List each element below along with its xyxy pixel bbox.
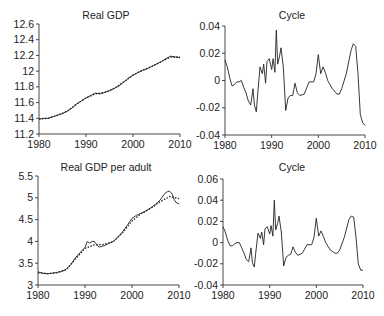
panel-cycle-gdp: Cycle -0.04-0.0200.020.04198019902000201… bbox=[196, 9, 377, 151]
series-actual bbox=[38, 191, 179, 273]
panel-title: Real GDP bbox=[82, 9, 129, 21]
y-tick-label: 12 bbox=[22, 65, 34, 77]
series-actual bbox=[39, 56, 180, 119]
panel-title: Real GDP per adult bbox=[61, 161, 152, 173]
y-tick-label: 12.6 bbox=[14, 18, 35, 30]
y-tick-label: 5 bbox=[27, 191, 33, 203]
y-tick-label: 3.5 bbox=[18, 257, 33, 269]
y-tick-label: -0.02 bbox=[196, 101, 220, 113]
x-tick-label: 1980 bbox=[27, 138, 51, 150]
axes: 11.211.411.611.81212.212.412.61980199020… bbox=[14, 18, 192, 151]
axes: -0.04-0.0200.020.041980199020002010 bbox=[196, 20, 377, 152]
y-tick-label: 4 bbox=[27, 235, 33, 247]
y-tick-label: 0.06 bbox=[198, 173, 219, 185]
x-tick-label: 1980 bbox=[213, 139, 237, 151]
x-tick-label: 2000 bbox=[121, 138, 145, 150]
y-tick-label: -0.02 bbox=[194, 257, 218, 269]
y-tick-label: 0 bbox=[214, 74, 220, 86]
y-tick-label: 11.8 bbox=[14, 80, 34, 92]
x-tick-label: 1990 bbox=[260, 139, 284, 151]
y-tick-label: 0.02 bbox=[200, 47, 221, 59]
panel-cycle-gdp-per-adult: Cycle -0.04-0.0200.020.040.0619801990200… bbox=[194, 161, 375, 301]
x-tick-label: 2010 bbox=[168, 138, 192, 150]
series-cycle bbox=[225, 30, 365, 125]
y-tick-label: 0.04 bbox=[200, 20, 221, 32]
series-trend bbox=[39, 57, 180, 119]
x-tick-label: 1990 bbox=[74, 138, 98, 150]
panel-title: Cycle bbox=[279, 161, 305, 173]
series-cycle bbox=[223, 200, 363, 270]
y-tick-label: 12.4 bbox=[14, 33, 35, 45]
panel-title: Cycle bbox=[279, 9, 305, 21]
x-tick-label: 1990 bbox=[258, 289, 282, 301]
x-tick-label: 1980 bbox=[211, 289, 235, 301]
chart-figure: Real GDP 11.211.411.611.81212.212.412.61… bbox=[0, 0, 384, 316]
y-tick-label: 0.02 bbox=[198, 215, 219, 227]
axes: -0.04-0.0200.020.040.061980199020002010 bbox=[194, 173, 375, 302]
x-tick-label: 2000 bbox=[307, 139, 331, 151]
y-tick-label: 0.04 bbox=[198, 194, 219, 206]
x-tick-label: 2010 bbox=[351, 289, 375, 301]
x-tick-label: 1980 bbox=[26, 289, 50, 301]
y-tick-label: 0 bbox=[212, 236, 218, 248]
axes: 33.544.555.51980199020002010 bbox=[18, 170, 190, 302]
y-tick-label: 4.5 bbox=[18, 213, 33, 225]
y-tick-label: 5.5 bbox=[18, 170, 33, 182]
x-tick-label: 2010 bbox=[353, 139, 377, 151]
x-tick-label: 2000 bbox=[120, 289, 144, 301]
x-tick-label: 2000 bbox=[305, 289, 329, 301]
y-tick-label: 11.6 bbox=[14, 96, 34, 108]
panel-real-gdp-per-adult: Real GDP per adult 33.544.555.5198019902… bbox=[18, 161, 190, 301]
panel-real-gdp: Real GDP 11.211.411.611.81212.212.412.61… bbox=[14, 9, 192, 150]
x-tick-label: 2010 bbox=[167, 289, 191, 301]
y-tick-label: 12.2 bbox=[14, 49, 35, 61]
series-trend bbox=[38, 197, 179, 274]
x-tick-label: 1990 bbox=[73, 289, 97, 301]
y-tick-label: 11.4 bbox=[14, 112, 34, 124]
